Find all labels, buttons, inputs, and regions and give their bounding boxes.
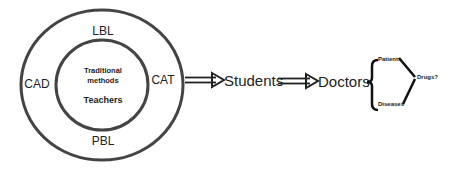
diagram-svg: LBL CAD CAT PBL Traditional methods Teac… <box>0 0 454 169</box>
connector-line <box>399 58 415 77</box>
label-cad: CAD <box>24 77 50 91</box>
label-diseases: Diseases <box>378 101 405 107</box>
label-traditional: Traditional <box>84 66 122 75</box>
label-teachers: Teachers <box>84 95 123 105</box>
diagram-canvas: LBL CAD CAT PBL Traditional methods Teac… <box>0 0 454 169</box>
label-doctors: Doctors <box>318 73 370 90</box>
label-cat: CAT <box>151 73 175 87</box>
label-pbl: PBL <box>92 134 115 148</box>
label-methods: methods <box>87 76 118 85</box>
inner-circle <box>56 40 148 130</box>
label-lbl: LBL <box>92 24 114 38</box>
label-drugs: Drugs? <box>417 74 438 80</box>
connector-line <box>403 79 415 104</box>
label-students: Students <box>224 72 283 89</box>
double-arrow-icon <box>185 73 224 87</box>
double-arrow-icon <box>278 74 318 88</box>
